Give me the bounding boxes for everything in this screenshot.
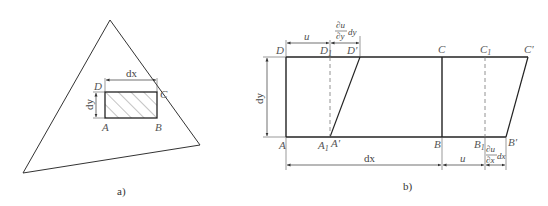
- label-du-dx-numerator: ∂u: [486, 144, 495, 154]
- label-dy-b: dy: [253, 93, 265, 105]
- label-B-prime-b: B′: [508, 136, 518, 148]
- label-C1-b: C1: [480, 43, 491, 57]
- label-dy-a: dy: [83, 99, 95, 111]
- label-B1-b: B1: [474, 138, 485, 152]
- label-dx-b: dx: [364, 152, 376, 164]
- label-C-b: C: [438, 43, 446, 55]
- label-D-prime-b: D′: [346, 44, 358, 56]
- label-dx-a: dx: [126, 67, 138, 79]
- edge-B-prime-C-prime: [506, 57, 528, 137]
- label-du-dx-suffix: dx: [497, 151, 506, 161]
- label-C-a: C: [160, 88, 168, 100]
- label-du-dy-suffix: dy: [348, 27, 357, 37]
- label-A-a: A: [101, 121, 109, 133]
- label-D-b: D: [275, 44, 284, 56]
- label-A-prime-b: A′: [330, 137, 341, 149]
- label-A1-b: A1: [317, 139, 329, 153]
- label-du-dy-denominator: ∂y: [336, 31, 344, 41]
- label-B-b: B: [434, 138, 441, 150]
- label-C-prime-b: C′: [524, 43, 534, 55]
- element-rectangle: [105, 92, 157, 118]
- caption-b: b): [403, 180, 413, 193]
- label-du-dy-numerator: ∂u: [336, 20, 345, 30]
- label-u-bottom: u: [460, 152, 466, 164]
- diagram-canvas: dx dy D C A B a) u ∂u ∂: [0, 0, 548, 206]
- label-B-a: B: [155, 121, 162, 133]
- label-A-b: A: [278, 139, 286, 151]
- edge-A-prime-D-prime: [330, 57, 360, 137]
- label-u-top: u: [304, 30, 310, 42]
- label-D-a: D: [93, 80, 102, 92]
- panel-a: dx dy D C A B a): [23, 20, 200, 198]
- panel-b: u ∂u ∂y dy dy dx u ∂u ∂x dx D D1 D′ C C1…: [253, 20, 534, 193]
- caption-a: a): [117, 185, 126, 198]
- label-du-dx-denominator: ∂x: [486, 155, 494, 165]
